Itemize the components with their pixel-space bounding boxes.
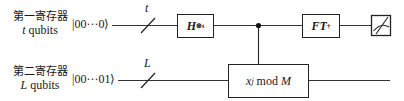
control-dot-icon [256, 23, 261, 28]
register-1-title: 第一寄存器 [0, 7, 80, 23]
register-1-size: t qubits [0, 23, 80, 38]
register-2-wire-label: L [144, 56, 151, 71]
register-2-title: 第二寄存器 [0, 62, 80, 78]
hadamard-gate: H⊗t [177, 14, 214, 38]
register-2-size: L qubits [0, 78, 80, 93]
register-1-initial-state: |00···0⟩ [72, 17, 109, 32]
register-1-wire-label: t [145, 1, 148, 16]
inverse-ft-gate: FT† [302, 14, 340, 38]
meter-icon [372, 16, 391, 36]
register-2-initial-state: |00···01⟩ [72, 72, 115, 87]
modular-exponentiation-gate: xj mod M [228, 64, 309, 98]
